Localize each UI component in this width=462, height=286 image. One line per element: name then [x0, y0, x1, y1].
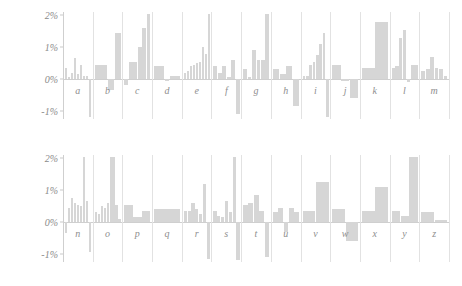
- bottom-panel-group-label-n: n: [75, 228, 80, 239]
- bar: [175, 76, 180, 79]
- bottom-panel-group-label-p: p: [135, 228, 140, 239]
- bottom-panel-plot-area: 2%1%0%-1%nopqrstuvwxyz: [63, 155, 449, 262]
- bar: [265, 14, 269, 79]
- bar: [316, 182, 329, 222]
- bottom-panel-group-label-v: v: [313, 228, 317, 239]
- bar: [439, 69, 443, 79]
- bar: [375, 187, 388, 222]
- bottom-panel-group-separator: [360, 155, 361, 262]
- bottom-panel-y-tick-label: 2%: [45, 153, 58, 164]
- bar: [138, 47, 142, 79]
- bar: [444, 76, 448, 79]
- bar: [293, 79, 299, 106]
- bar: [316, 55, 319, 79]
- bar: [203, 184, 206, 222]
- top-panel-group-label-j: j: [344, 85, 347, 96]
- bar: [430, 57, 434, 79]
- bar: [129, 62, 133, 80]
- bar: [243, 69, 247, 79]
- bottom-panel-group-label-t: t: [255, 228, 258, 239]
- bar: [243, 205, 248, 223]
- bar: [326, 79, 329, 117]
- bar: [332, 209, 345, 222]
- bar: [350, 79, 358, 98]
- bar: [222, 66, 226, 79]
- bar: [280, 74, 286, 79]
- bar: [95, 65, 101, 79]
- bar: [414, 65, 417, 79]
- bar: [278, 208, 283, 222]
- bar: [399, 38, 402, 80]
- bar: [165, 79, 170, 81]
- bar: [217, 216, 220, 222]
- bar: [89, 79, 91, 117]
- top-panel-group-separator: [211, 12, 212, 119]
- bar: [118, 219, 120, 222]
- top-panel-group-separator: [271, 12, 272, 119]
- bar: [199, 214, 202, 222]
- bar: [319, 44, 322, 79]
- top-panel-group-label-k: k: [373, 85, 377, 96]
- bottom-panel-group-separator: [152, 155, 153, 262]
- bar: [231, 60, 235, 79]
- top-panel-group-separator: [301, 12, 302, 119]
- top-panel-group-label-l: l: [403, 85, 406, 96]
- top-panel-y-tick-label: 0%: [45, 74, 58, 85]
- top-panel-y-tick-label: -1%: [41, 106, 58, 117]
- top-panel-group-separator: [449, 12, 450, 119]
- bar: [142, 28, 146, 79]
- top-panel-group-label-g: g: [254, 85, 259, 96]
- bar: [362, 68, 375, 79]
- top-panel-group-separator: [390, 12, 391, 119]
- bar: [375, 22, 388, 79]
- bar: [409, 157, 417, 222]
- top-panel-group-label-i: i: [314, 85, 317, 96]
- bar: [221, 217, 224, 222]
- bar: [306, 76, 309, 79]
- top-panel-y-tick-label: 2%: [45, 10, 58, 21]
- bar: [435, 68, 439, 79]
- bar: [170, 76, 175, 79]
- bar: [313, 62, 316, 80]
- bottom-panel-group-separator: [330, 155, 331, 262]
- top-panel-group-label-h: h: [283, 85, 288, 96]
- bottom-panel-group-label-z: z: [432, 228, 436, 239]
- bar: [191, 203, 194, 222]
- bar: [133, 217, 141, 222]
- bar: [248, 77, 252, 79]
- bar: [273, 69, 279, 79]
- bar: [421, 71, 425, 79]
- bottom-panel-group-label-s: s: [224, 228, 228, 239]
- bar: [392, 211, 400, 222]
- bar: [86, 201, 88, 222]
- bar: [392, 68, 395, 79]
- bar: [289, 208, 294, 222]
- bottom-panel-group-separator: [419, 155, 420, 262]
- bar: [154, 66, 159, 79]
- bar: [154, 209, 180, 222]
- bottom-panel-group-separator: [93, 155, 94, 262]
- bottom-panel-group-label-x: x: [373, 228, 377, 239]
- top-panel-group-separator: [419, 12, 420, 119]
- bottom-panel-y-tick-mark: [60, 254, 63, 255]
- bar: [303, 76, 306, 79]
- bar: [407, 79, 410, 82]
- top-panel-y-tick-mark: [60, 111, 63, 112]
- bar: [236, 222, 239, 260]
- bar: [101, 65, 107, 79]
- bar: [341, 79, 349, 81]
- bar: [133, 62, 137, 80]
- bottom-panel-group-label-q: q: [164, 228, 169, 239]
- top-panel-plot-area: 2%1%0%-1%abcdefghijklm: [63, 12, 449, 119]
- bar: [124, 205, 132, 223]
- bar: [294, 212, 299, 222]
- bar: [218, 73, 222, 79]
- bottom-panel-group-label-o: o: [105, 228, 110, 239]
- bar: [213, 66, 217, 79]
- bar: [252, 50, 256, 79]
- bar: [323, 33, 326, 79]
- bar: [227, 77, 231, 79]
- bar: [248, 203, 253, 222]
- bar: [426, 69, 430, 79]
- bottom-panel-group-label-u: u: [283, 228, 288, 239]
